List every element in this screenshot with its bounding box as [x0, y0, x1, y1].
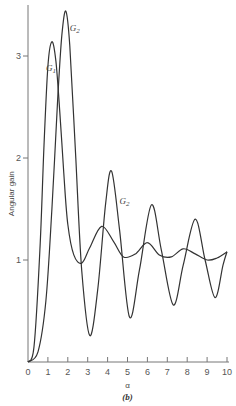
x-tick-label: 8 — [185, 367, 190, 377]
y-axis-title: Angular gain — [7, 171, 16, 216]
x-tick-label: 6 — [145, 367, 150, 377]
angular-gain-chart: 012345678910123 G1G2G2Angular gainα(b) — [0, 0, 236, 406]
x-tick-label: 5 — [125, 367, 130, 377]
x-tick-label: 7 — [165, 367, 170, 377]
labels: G1G2G2Angular gainα(b) — [7, 23, 133, 403]
y-tick-label: 2 — [16, 153, 21, 163]
x-tick-label: 1 — [45, 367, 50, 377]
x-tick-label: 0 — [25, 367, 30, 377]
x-tick-label: 3 — [85, 367, 90, 377]
figure-caption: (b) — [122, 392, 133, 402]
x-tick-label: 9 — [205, 367, 210, 377]
curves — [28, 11, 227, 362]
y-tick-label: 1 — [16, 255, 21, 265]
curve-label-g2-secondary: G2 — [120, 196, 131, 208]
curve-label-g2: G2 — [70, 23, 81, 35]
y-tick-label: 3 — [16, 51, 21, 61]
x-axis-title: α — [125, 381, 130, 390]
x-tick-label: 2 — [65, 367, 70, 377]
curve-g2 — [28, 11, 227, 362]
x-tick-label: 10 — [222, 367, 232, 377]
x-tick-label: 4 — [105, 367, 110, 377]
